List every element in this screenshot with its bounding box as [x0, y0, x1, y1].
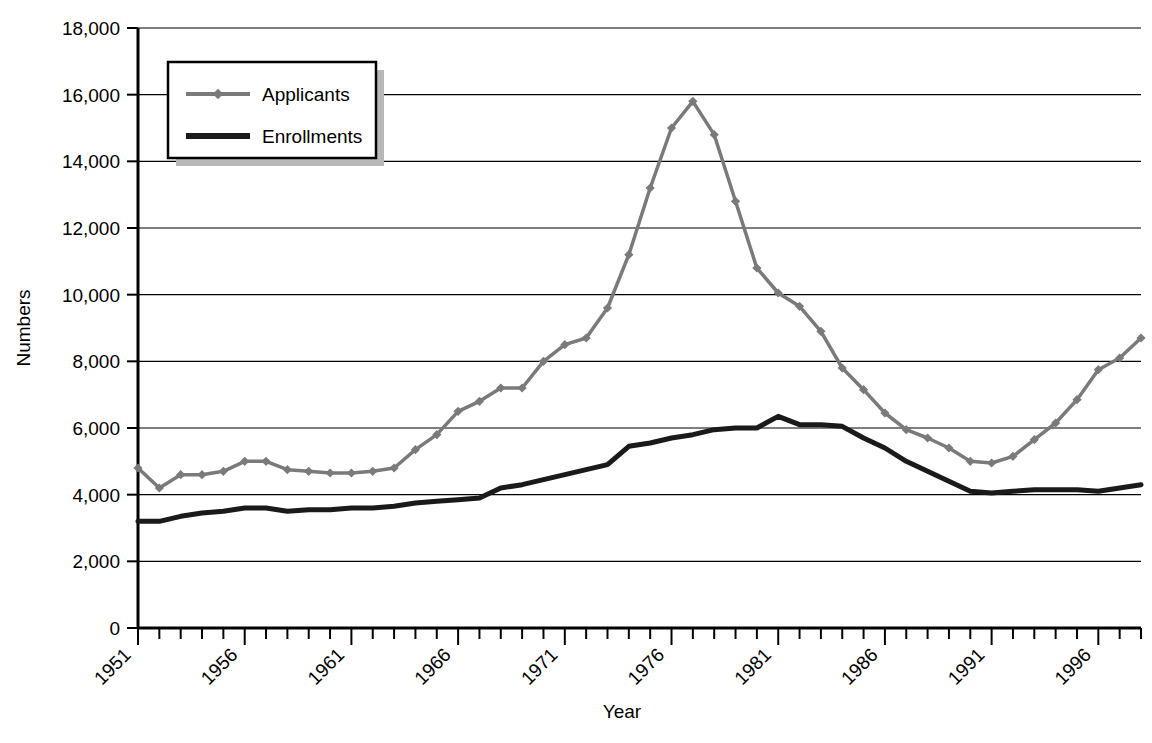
y-axis-tick-label: 8,000 — [72, 351, 120, 372]
data-point-marker — [368, 467, 377, 476]
x-axis-tick-label: 1991 — [944, 644, 989, 689]
legend-label: Applicants — [262, 84, 350, 105]
legend-label: Enrollments — [262, 126, 362, 147]
y-axis-tick-labels-group: 02,0004,0006,0008,00010,00012,00014,0001… — [62, 18, 120, 639]
x-axis-tick-label: 1976 — [624, 644, 669, 689]
x-axis-tick-label: 1961 — [303, 644, 348, 689]
y-axis-tick-label: 12,000 — [62, 218, 120, 239]
data-point-marker — [283, 465, 292, 474]
y-axis-tick-label: 4,000 — [72, 485, 120, 506]
data-point-marker — [261, 457, 270, 466]
data-point-marker — [347, 468, 356, 477]
y-axis-tick-label: 14,000 — [62, 151, 120, 172]
data-point-marker — [304, 467, 313, 476]
data-point-marker — [646, 183, 655, 192]
y-axis-tick-label: 10,000 — [62, 285, 120, 306]
legend[interactable]: ApplicantsEnrollments — [168, 62, 384, 166]
data-point-marker — [197, 470, 206, 479]
x-axis-tick-label: 1981 — [730, 644, 775, 689]
data-point-marker — [624, 250, 633, 259]
y-axis-tick-label: 16,000 — [62, 85, 120, 106]
x-axis-tick-label: 1956 — [197, 644, 242, 689]
y-axis-tick-label: 18,000 — [62, 18, 120, 39]
y-axis-ticks-group — [127, 28, 138, 628]
data-point-marker — [731, 197, 740, 206]
y-axis-tick-label: 2,000 — [72, 551, 120, 572]
data-point-marker — [325, 468, 334, 477]
x-axis-tick-label: 1996 — [1050, 644, 1095, 689]
x-axis-tick-label: 1986 — [837, 644, 882, 689]
chart-container: 02,0004,0006,0008,00010,00012,00014,0001… — [0, 0, 1152, 743]
x-axis-ticks-group — [138, 628, 1141, 645]
line-chart: 02,0004,0006,0008,00010,00012,00014,0001… — [0, 0, 1152, 743]
x-axis-tick-label: 1951 — [90, 644, 135, 689]
data-point-marker — [987, 458, 996, 467]
x-axis-tick-labels-group: 1951195619611966197119761981198619911996 — [90, 644, 1095, 689]
y-axis-title: Numbers — [13, 289, 34, 366]
y-axis-tick-label: 6,000 — [72, 418, 120, 439]
x-axis-tick-label: 1971 — [517, 644, 562, 689]
y-axis-tick-label: 0 — [109, 618, 120, 639]
x-axis-title: Year — [603, 701, 642, 722]
x-axis-tick-label: 1966 — [410, 644, 455, 689]
